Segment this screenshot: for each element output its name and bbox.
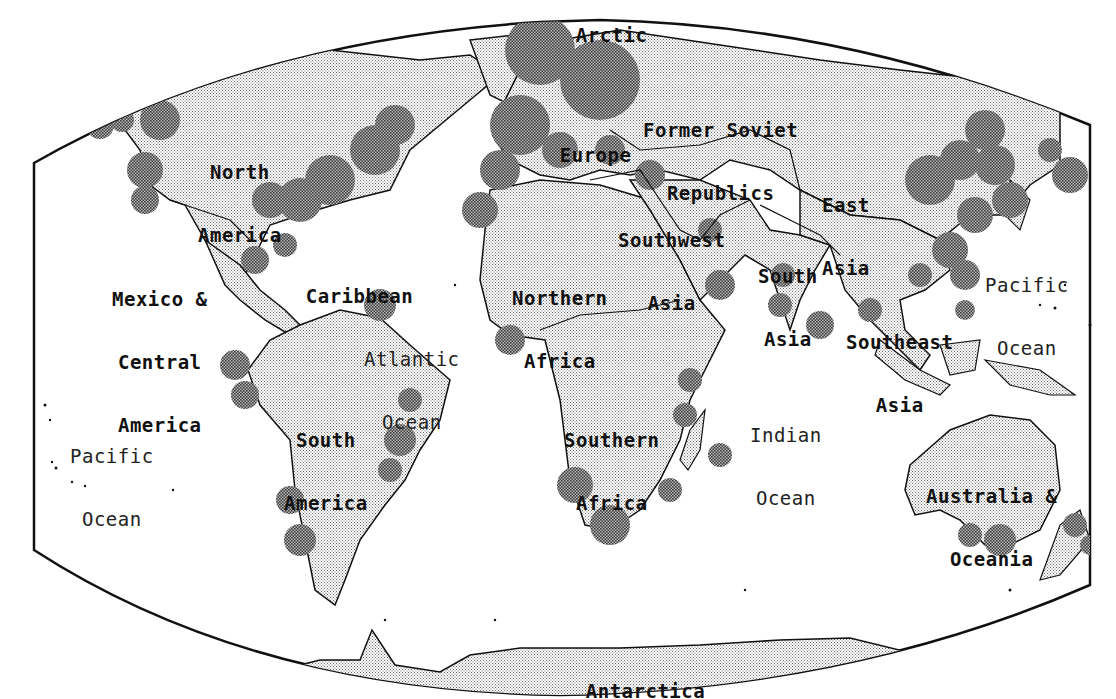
label-pacific-ocean-west: Pacific Ocean	[70, 404, 154, 572]
label-line: Ocean	[70, 509, 154, 530]
label-line: America	[284, 493, 368, 514]
label-line: Atlantic	[364, 349, 460, 370]
label-line: Africa	[512, 351, 608, 372]
label-line: Mexico &	[112, 289, 208, 310]
label-southern-africa: Southern Africa	[564, 388, 660, 556]
label-line: Southern	[564, 430, 660, 451]
label-line: South	[758, 266, 818, 287]
label-line: Asia	[758, 329, 818, 350]
label-line: East	[822, 195, 870, 216]
label-line: Asia	[822, 258, 870, 279]
label-southwest-asia: Southwest Asia	[618, 188, 725, 356]
label-text: Europe	[560, 144, 632, 166]
label-atlantic-ocean: Atlantic Ocean	[364, 307, 460, 475]
label-pacific-ocean-east: Pacific Ocean	[985, 233, 1069, 401]
label-line: Africa	[564, 493, 660, 514]
label-text: Arctic	[576, 24, 648, 46]
label-line: Australia &	[926, 486, 1057, 507]
label-line: Northern	[512, 288, 608, 309]
label-southeast-asia: Southeast Asia	[846, 290, 953, 458]
label-indian-ocean: Indian Ocean	[750, 383, 822, 551]
label-line: Ocean	[985, 338, 1069, 359]
label-australia-oceania: Australia & Oceania	[926, 444, 1057, 612]
label-line: Asia	[846, 395, 953, 416]
label-line: South	[284, 430, 368, 451]
label-line: Asia	[618, 293, 725, 314]
label-line: Indian	[750, 425, 822, 446]
label-line: Oceania	[926, 549, 1057, 570]
label-line: Former Soviet	[643, 120, 798, 141]
label-line: Central	[112, 352, 208, 373]
label-line: North	[198, 162, 282, 183]
label-line: Southwest	[618, 230, 725, 251]
label-text: Antarctica	[586, 680, 705, 699]
label-line: Ocean	[750, 488, 822, 509]
label-north-america: North America	[198, 120, 282, 288]
label-south-asia: South Asia	[758, 224, 818, 392]
label-line: Pacific	[985, 275, 1069, 296]
label-line: Southeast	[846, 332, 953, 353]
label-line: Ocean	[364, 412, 460, 433]
world-regions-map: Arctic Former Soviet Republics North Ame…	[0, 0, 1116, 699]
label-text: Caribbean	[306, 285, 413, 307]
label-line: America	[198, 225, 282, 246]
label-line: Pacific	[70, 446, 154, 467]
label-south-america: South America	[284, 388, 368, 556]
label-antarctica: Antarctica	[538, 660, 705, 699]
label-europe: Europe	[512, 124, 631, 187]
label-arctic: Arctic	[528, 4, 647, 67]
